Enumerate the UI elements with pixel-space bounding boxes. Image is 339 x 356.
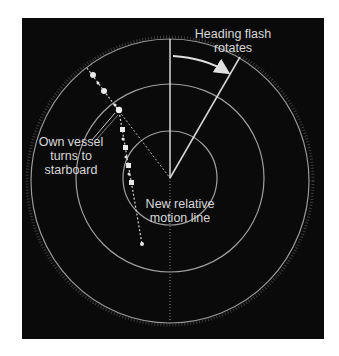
rotation-arrow-icon [173,56,227,72]
track-point [90,72,96,78]
heading-flash-label: Heading flash rotates [178,27,288,55]
own-vessel-label-line3: starboard [26,163,116,177]
rotated-heading-line [170,57,240,178]
radar-diagram: Heading flash rotates Own vessel turns t… [0,0,339,356]
own-vessel-label-line1: Own vessel [26,135,116,149]
track-point [114,104,117,107]
relative-motion-label-line1: New relative [132,197,228,211]
relative-motion-end-point [140,242,144,246]
track-point [120,127,125,132]
track-point [101,88,107,94]
heading-flash-label-line2: rotates [178,41,288,55]
own-vessel-label: Own vessel turns to starboard [26,135,116,177]
track-point [97,82,100,85]
own-vessel-label-line2: turns to [26,149,116,163]
relative-motion-label: New relative motion line [132,197,228,225]
track-point [128,173,131,176]
track-point [129,180,134,185]
radar-graphics [0,0,339,356]
turn-point [116,107,122,113]
track-point [125,156,128,159]
heading-flash-label-line1: Heading flash [178,27,288,41]
track-point [122,138,125,141]
track-point [123,145,128,150]
track-point [126,163,131,168]
relative-motion-label-line2: motion line [132,211,228,225]
